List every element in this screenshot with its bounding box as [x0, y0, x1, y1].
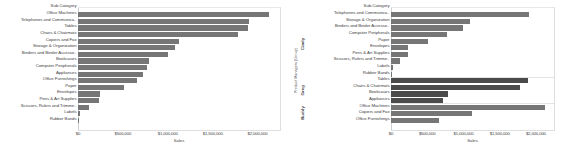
bar[interactable]	[391, 39, 428, 44]
category-label[interactable]: Office Machines	[47, 11, 77, 15]
right-x-axis: $0$500,000$1,000,000$1,500,000$2,000,000…	[391, 130, 554, 144]
category-label[interactable]: Labels	[64, 110, 76, 114]
category-label[interactable]: Office Furnishings	[356, 117, 390, 121]
category-label[interactable]: Binders and Binder Accesso..	[335, 24, 390, 28]
category-label[interactable]: Copiers and Fax	[359, 110, 390, 114]
category-label[interactable]: Office Machines	[360, 104, 390, 108]
category-label[interactable]: Rubber Bands	[363, 71, 390, 75]
category-label[interactable]: Appliances	[369, 97, 390, 101]
bar[interactable]	[78, 98, 99, 103]
x-tick-label: $500,000	[419, 131, 436, 136]
right-y-axis-title: Product Managers (Group)	[294, 11, 298, 129]
bar[interactable]	[391, 25, 463, 30]
category-label[interactable]: Computer Peripherals	[349, 31, 390, 35]
group-separator	[391, 103, 554, 104]
bar[interactable]	[78, 111, 80, 116]
category-label[interactable]: Paper	[378, 38, 389, 42]
category-label[interactable]: Telephones and Communica..	[334, 11, 390, 15]
category-label[interactable]: Envelopes	[370, 44, 390, 48]
x-tick-label: $1,500,000	[203, 131, 223, 136]
category-label[interactable]: Chairs & Chairmats	[353, 84, 389, 88]
category-label[interactable]: Appliances	[56, 71, 77, 75]
category-label[interactable]: Storage & Organization	[346, 18, 390, 22]
x-tick-label: $2,000,000	[248, 131, 268, 136]
bar[interactable]	[391, 32, 447, 37]
x-tick-label: $1,000,000	[158, 131, 178, 136]
category-label[interactable]: Scissors, Rulers and Trimme..	[21, 104, 77, 108]
bar[interactable]	[391, 19, 470, 24]
category-label[interactable]: Bookcases	[56, 57, 77, 61]
bar[interactable]	[391, 58, 400, 63]
bar[interactable]	[78, 78, 137, 83]
bar[interactable]	[78, 85, 124, 90]
left-plot-area	[78, 7, 281, 131]
category-label[interactable]: Office Furnishings	[43, 77, 77, 81]
group-label[interactable]: Cindy	[301, 11, 305, 77]
bar[interactable]	[391, 91, 448, 96]
x-tick-label: $0	[76, 131, 80, 136]
category-label[interactable]: Storage & Organization	[33, 44, 77, 48]
x-axis-title: Sales	[467, 138, 477, 143]
bar[interactable]	[78, 39, 179, 44]
category-label[interactable]: Pens & Art Supplies	[39, 97, 76, 101]
category-label[interactable]: Computer Peripherals	[36, 64, 77, 68]
category-label[interactable]: Tables	[64, 24, 76, 28]
category-label[interactable]: Labels	[377, 64, 389, 68]
bar[interactable]	[78, 72, 143, 77]
right-plot-area	[391, 7, 555, 131]
left-x-axis: $0$500,000$1,000,000$1,500,000$2,000,000…	[78, 130, 280, 144]
bar[interactable]	[78, 58, 149, 63]
category-label[interactable]: Bookcases	[369, 90, 390, 94]
chart-panel-left: Sub-CategoryOffice MachinesTelephones an…	[0, 0, 292, 159]
category-label[interactable]: Rubber Bands	[50, 117, 77, 121]
bar[interactable]	[78, 45, 175, 50]
chart-panel-right: Product Managers (Group) CindyGregBuddy …	[292, 0, 565, 159]
x-tick-label: $1,000,000	[453, 131, 473, 136]
category-label[interactable]: Tables	[377, 77, 389, 81]
bar[interactable]	[78, 65, 147, 70]
category-label[interactable]: Binders and Binder Accesso..	[22, 51, 77, 55]
bar[interactable]	[391, 12, 529, 17]
group-label[interactable]: Buddy	[301, 103, 305, 123]
bar[interactable]	[78, 19, 249, 24]
bar[interactable]	[391, 118, 439, 123]
category-axis-header: Sub-Category	[364, 4, 390, 8]
category-label[interactable]: Pens & Art Supplies	[352, 51, 389, 55]
bar[interactable]	[391, 52, 408, 57]
bar[interactable]	[78, 52, 168, 57]
bar[interactable]	[78, 25, 248, 30]
bar[interactable]	[391, 65, 393, 70]
bar[interactable]	[391, 105, 545, 110]
bar[interactable]	[391, 72, 392, 77]
bar[interactable]	[391, 111, 472, 116]
bar[interactable]	[78, 12, 269, 17]
group-label[interactable]: Greg	[301, 77, 305, 103]
bar[interactable]	[78, 118, 79, 123]
group-separator	[391, 77, 554, 78]
x-tick-label: $1,500,000	[490, 131, 510, 136]
x-tick-label: $0	[389, 131, 393, 136]
category-label[interactable]: Copiers and Fax	[46, 38, 77, 42]
category-label[interactable]: Chairs & Chairmats	[40, 31, 76, 35]
bar[interactable]	[78, 91, 100, 96]
bar[interactable]	[78, 105, 89, 110]
category-label[interactable]: Telephones and Communica..	[21, 18, 77, 22]
x-axis-title: Sales	[174, 138, 184, 143]
bar[interactable]	[391, 85, 520, 90]
category-label[interactable]: Paper	[65, 84, 76, 88]
x-tick-label: $500,000	[115, 131, 132, 136]
bar[interactable]	[78, 32, 238, 37]
bar[interactable]	[391, 45, 408, 50]
dual-bar-chart-view: Sub-CategoryOffice MachinesTelephones an…	[0, 0, 565, 159]
category-axis-header: Sub-Category	[51, 4, 77, 8]
bar[interactable]	[391, 78, 528, 83]
x-tick-label: $2,000,000	[526, 131, 546, 136]
category-label[interactable]: Scissors, Rulers and Trimme..	[334, 57, 390, 61]
category-label[interactable]: Envelopes	[57, 90, 77, 94]
